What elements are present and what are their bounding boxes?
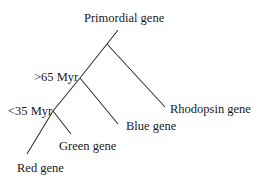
edge-split3-green [53,111,71,134]
edge-split1-split2 [80,44,107,78]
phylogenetic-tree-diagram: Primordial gene >65 Myr <35 Myr Rhodopsi… [0,0,266,186]
node-label-65myr: >65 Myr [34,71,78,84]
edge-split1-rhodopsin [107,44,165,107]
leaf-label-red: Red gene [17,162,64,175]
node-label-35myr: <35 Myr [8,105,52,118]
edge-root-split1 [107,30,118,44]
leaf-label-green: Green gene [59,140,116,153]
tree-lines [0,0,266,186]
leaf-label-blue: Blue gene [126,120,176,133]
leaf-label-rhodopsin: Rhodopsin gene [170,103,251,116]
root-label: Primordial gene [84,12,164,25]
edge-split2-blue [80,78,118,124]
